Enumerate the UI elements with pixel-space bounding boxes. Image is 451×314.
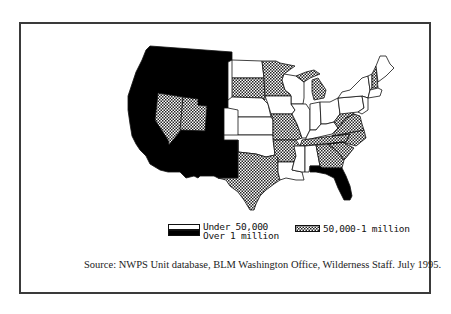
source-caption: Source: NWPS Unit database, BLM Washingt…	[84, 259, 441, 270]
legend-label-over-1-million: Over 1 million	[203, 231, 279, 241]
legend-label-50000-1-million: 50,000-1 million	[323, 224, 410, 234]
state-kansas	[238, 117, 273, 135]
state-north-dakota	[232, 60, 264, 78]
state-florida	[310, 166, 352, 200]
legend-swatch-50000-1-million	[295, 225, 320, 232]
state-michigan-lower	[312, 78, 326, 100]
legend-swatch-over-1-million	[168, 230, 200, 236]
state-nebraska	[228, 97, 271, 117]
state-new-york	[338, 76, 370, 98]
state-maine	[376, 56, 394, 82]
state-south-dakota	[232, 78, 265, 100]
